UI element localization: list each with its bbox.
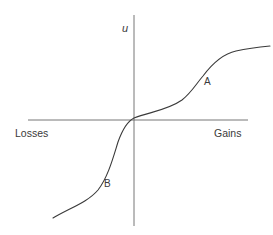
gains-label: Gains <box>214 127 241 139</box>
point-label-a: A <box>204 76 211 87</box>
y-axis-label: u <box>122 22 128 34</box>
value-function-diagram: u A B Losses Gains <box>0 0 273 235</box>
losses-label: Losses <box>15 127 48 139</box>
point-label-b: B <box>104 178 111 189</box>
